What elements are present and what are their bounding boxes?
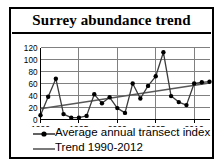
plot-area: 020406080100120 19901995200020052010: [11, 34, 212, 127]
legend-item-series: Average annual transect index: [33, 126, 210, 138]
legend-label-trend: Trend 1990-2012: [55, 141, 143, 153]
line-chart-svg: 020406080100120 19901995200020052010: [11, 34, 212, 127]
svg-text:40: 40: [28, 92, 38, 101]
chart-title: Surrey abundance trend: [11, 12, 212, 29]
legend-key-series-icon: [33, 126, 55, 138]
gridlines: [41, 48, 210, 120]
svg-text:120: 120: [24, 44, 38, 53]
svg-text:100: 100: [24, 56, 38, 65]
chart-card: Surrey abundance trend 020406080100120 1…: [9, 7, 214, 159]
svg-text:60: 60: [28, 80, 38, 89]
legend-label-series: Average annual transect index: [55, 126, 210, 138]
chart-legend: Average annual transect index Trend 1990…: [11, 126, 212, 159]
svg-text:80: 80: [28, 68, 38, 77]
svg-text:20: 20: [28, 104, 38, 113]
legend-item-trend: Trend 1990-2012: [33, 141, 143, 153]
y-tick-labels: 020406080100120: [24, 44, 38, 125]
legend-key-trend-icon: [33, 141, 55, 153]
series-markers: [38, 50, 211, 120]
